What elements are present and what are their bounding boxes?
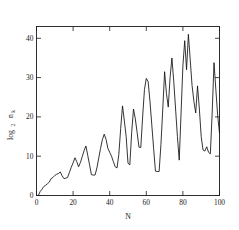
x-tick-label: 40 [106,198,114,207]
line-chart: 020406080100 010203040 N log 2 n k [0,0,239,230]
y-axis-label-var-subscript: k [10,110,16,113]
y-tick-label: 10 [26,152,34,161]
x-axis-label: N [125,212,131,221]
y-axis-ticks-right [215,38,220,195]
y-axis-label-var: n [6,114,15,118]
plot-frame [37,27,220,196]
x-axis-ticks-top [37,27,220,32]
y-axis-tick-labels: 010203040 [26,34,34,200]
y-tick-label: 40 [26,34,34,43]
y-tick-label: 0 [30,191,34,200]
y-tick-label: 30 [26,73,34,82]
x-tick-label: 60 [143,198,151,207]
x-tick-label: 80 [179,198,187,207]
x-axis-tick-labels: 020406080100 [35,198,226,207]
y-axis-label: log 2 n k [6,110,16,140]
x-tick-label: 0 [35,198,39,207]
y-axis-label-log: log [6,130,15,140]
x-tick-label: 100 [214,198,225,207]
chart-figure: 020406080100 010203040 N log 2 n k [0,0,239,230]
y-axis-ticks [37,38,42,195]
x-tick-label: 20 [69,198,77,207]
x-axis-ticks [37,191,220,196]
data-series-line [38,34,219,195]
y-axis-label-log-subscript: 2 [10,124,16,127]
y-tick-label: 20 [26,112,34,121]
